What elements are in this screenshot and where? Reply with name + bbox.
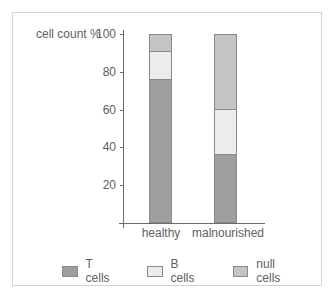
- y-tick-label-80: 80: [90, 65, 116, 79]
- x-axis: [119, 223, 265, 224]
- bar-malnourished-b-cells: [214, 109, 237, 155]
- legend-label-null-cells: null cells: [256, 257, 301, 285]
- y-tick-label-100: 100: [90, 27, 116, 41]
- legend-label-t-cells: T cells: [86, 257, 119, 285]
- x-label-malnourished: malnourished: [192, 226, 260, 240]
- legend-swatch-b-cells: [147, 266, 163, 277]
- bar-healthy-null-cells: [149, 34, 172, 52]
- legend-item-null-cells: null cells: [233, 257, 301, 285]
- bar-healthy-t-cells: [149, 79, 172, 223]
- legend-swatch-null-cells: [233, 266, 249, 277]
- legend-item-b-cells: B cells: [147, 257, 205, 285]
- bar-malnourished: [214, 34, 237, 223]
- x-label-healthy: healthy: [140, 226, 182, 240]
- bar-malnourished-null-cells: [214, 34, 237, 110]
- legend-label-b-cells: B cells: [171, 257, 205, 285]
- y-tick-label-40: 40: [90, 140, 116, 154]
- y-tick-label-20: 20: [90, 178, 116, 192]
- bar-malnourished-t-cells: [214, 154, 237, 223]
- y-tick-label-60: 60: [90, 103, 116, 117]
- legend-swatch-t-cells: [62, 266, 78, 277]
- y-axis: [123, 30, 124, 228]
- bar-healthy-b-cells: [149, 51, 172, 80]
- bar-healthy: [149, 34, 172, 223]
- legend: T cells B cells null cells: [62, 257, 329, 285]
- legend-item-t-cells: T cells: [62, 257, 119, 285]
